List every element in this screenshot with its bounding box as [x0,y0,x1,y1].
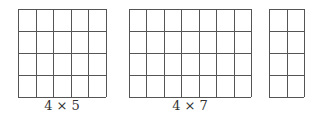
grid-4x2 [269,9,305,98]
grid-label-4x7: 4 × 7 [172,98,208,113]
grid-label-4x5: 4 × 5 [44,98,80,113]
grid-4x7 [129,9,252,98]
grid-4x5 [18,9,107,98]
